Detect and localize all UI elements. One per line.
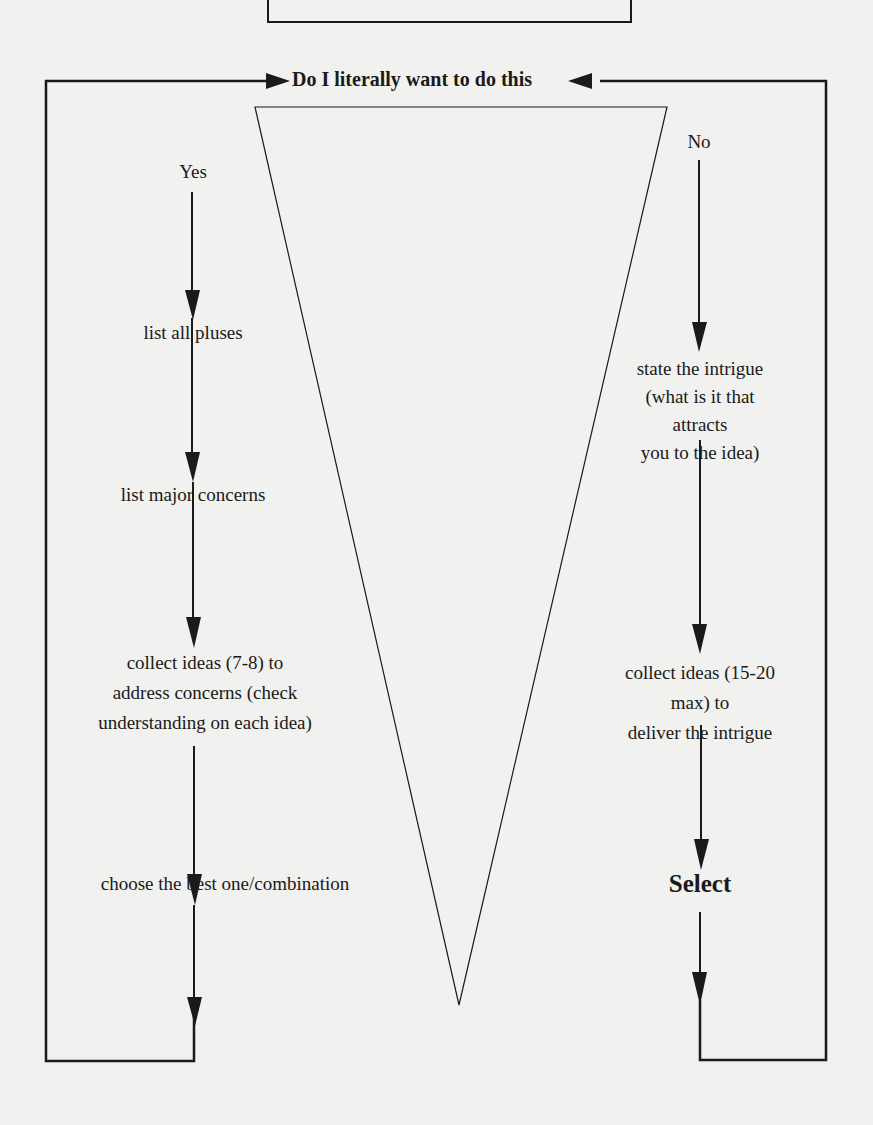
- funnel-triangle: [255, 107, 667, 1005]
- step-collect-ideas-yes: collect ideas (7-8) to address concerns …: [98, 648, 312, 738]
- right-arrow-head-icon: [266, 73, 290, 89]
- diagram-lines: [0, 0, 873, 1125]
- step-choose-best: choose the best one/combination: [101, 872, 350, 896]
- decision-title: Do I literally want to do this: [292, 68, 532, 91]
- step-list-pluses: list all pluses: [143, 321, 242, 345]
- yes-label: Yes: [179, 160, 207, 184]
- step-collect-ideas-no: collect ideas (15-20 max) to deliver the…: [614, 658, 787, 748]
- no-label: No: [687, 130, 710, 154]
- step-list-concerns: list major concerns: [121, 483, 266, 507]
- top-box: [268, 0, 631, 22]
- step-state-intrigue: state the intrigue (what is it that attr…: [637, 355, 764, 467]
- left-arrow-head-icon: [568, 73, 592, 89]
- left-loop-line: [46, 81, 270, 1061]
- right-loop-line: [600, 81, 826, 1060]
- step-select: Select: [669, 872, 731, 896]
